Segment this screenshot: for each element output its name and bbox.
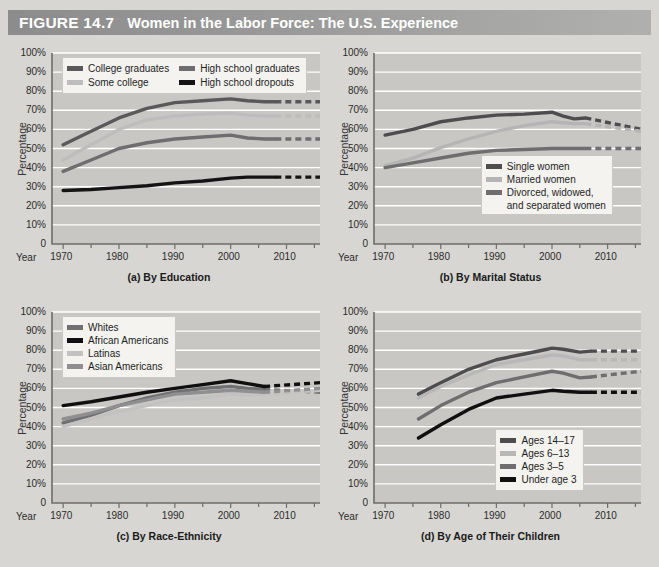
figure-title: Women in the Labor Force: The U.S. Exper… — [127, 15, 458, 31]
x-tick-label: 2010 — [595, 511, 617, 521]
y-tick-label: 90% — [330, 326, 368, 336]
legend-swatch — [67, 80, 83, 85]
legend-swatch — [486, 190, 502, 195]
panel-caption-b: (b) By Marital Status — [330, 271, 651, 283]
legend-item: Whites — [67, 322, 169, 334]
legend-label: Asian Americans — [88, 361, 162, 373]
y-tick-label: 70% — [330, 105, 368, 115]
legend-label: African Americans — [88, 335, 169, 347]
x-tick-label: 1970 — [372, 511, 394, 521]
chart-panel-d: 010%20%30%40%50%60%70%80%90%100%Percenta… — [330, 300, 651, 559]
x-tick-label: 1970 — [50, 511, 72, 521]
x-tick-label: 2010 — [274, 252, 296, 262]
legend-swatch — [67, 325, 83, 330]
legend-swatch — [500, 451, 516, 456]
legend-item: College graduates — [67, 63, 169, 75]
y-tick-label: 80% — [8, 86, 46, 96]
legend-label: Latinas — [88, 348, 120, 360]
x-tick-label: 1980 — [428, 511, 450, 521]
legend-label: Ages 3–5 — [521, 461, 563, 473]
x-tick-label: 1990 — [483, 511, 505, 521]
chart-panel-b: 010%20%30%40%50%60%70%80%90%100%Percenta… — [330, 41, 651, 300]
y-tick-label: 10% — [8, 220, 46, 230]
legend-item: Single women — [486, 161, 606, 173]
legend-swatch — [67, 338, 83, 343]
figure-header-bar: FIGURE 14.7 Women in the Labor Force: Th… — [8, 10, 651, 35]
legend-label: Whites — [88, 322, 119, 334]
legend-label: Under age 3 — [521, 474, 576, 486]
legend-swatch — [67, 351, 83, 356]
x-tick-label: 2010 — [595, 252, 617, 262]
y-tick-label: 20% — [8, 201, 46, 211]
legend-item: High school dropouts — [179, 77, 300, 89]
legend-item: Asian Americans — [67, 361, 169, 373]
y-tick-label: 0 — [330, 498, 368, 508]
legend-item: High school graduates — [179, 63, 300, 75]
y-tick-label: 10% — [330, 220, 368, 230]
x-tick-label: 1990 — [162, 252, 184, 262]
year-axis-label: Year — [338, 252, 358, 263]
x-tick-label: 1970 — [50, 252, 72, 262]
legend-item: Some college — [67, 77, 169, 89]
x-tick-label: 2000 — [539, 511, 561, 521]
x-tick-label: 1990 — [162, 511, 184, 521]
legend-swatch — [500, 477, 516, 482]
legend-item: African Americans — [67, 335, 169, 347]
legend-label: Some college — [88, 77, 149, 89]
legend-d: Ages 14–17Ages 6–13Ages 3–5Under age 3 — [495, 429, 583, 491]
legend-item: Ages 6–13 — [500, 448, 576, 460]
y-tick-label: 100% — [8, 48, 46, 58]
legend-c: WhitesAfrican AmericansLatinasAsian Amer… — [62, 316, 176, 378]
y-tick-label: 0 — [8, 239, 46, 249]
y-axis-label: Percentage — [338, 122, 350, 176]
y-tick-label: 0 — [8, 498, 46, 508]
x-tick-label: 2000 — [218, 511, 240, 521]
legend-b: Single womenMarried womenDivorced, widow… — [481, 155, 613, 215]
y-tick-label: 20% — [330, 460, 368, 470]
y-tick-label: 70% — [8, 105, 46, 115]
chart-panel-c: 010%20%30%40%50%60%70%80%90%100%Percenta… — [8, 300, 330, 559]
y-tick-label: 100% — [330, 48, 368, 58]
panel-caption-a: (a) By Education — [8, 271, 330, 283]
y-tick-label: 90% — [330, 67, 368, 77]
y-tick-label: 0 — [330, 239, 368, 249]
y-tick-label: 20% — [8, 460, 46, 470]
year-axis-label: Year — [16, 252, 36, 263]
panel-caption-c: (c) By Race-Ethnicity — [8, 530, 330, 542]
legend-swatch — [486, 164, 502, 169]
year-axis-label: Year — [16, 511, 36, 522]
x-tick-label: 2000 — [539, 252, 561, 262]
year-axis-label: Year — [338, 511, 358, 522]
legend-item: Under age 3 — [500, 474, 576, 486]
legend-a: College graduatesSome collegeHigh school… — [62, 57, 307, 94]
y-axis-label: Percentage — [16, 122, 28, 176]
legend-swatch — [67, 364, 83, 369]
y-tick-label: 100% — [330, 307, 368, 317]
y-tick-label: 80% — [330, 345, 368, 355]
legend-label: Married women — [507, 174, 576, 186]
legend-item: Latinas — [67, 348, 169, 360]
x-tick-label: 1970 — [372, 252, 394, 262]
legend-item: Married women — [486, 174, 606, 186]
y-tick-label: 70% — [8, 364, 46, 374]
x-tick-label: 2000 — [218, 252, 240, 262]
y-tick-label: 70% — [330, 364, 368, 374]
legend-swatch — [67, 66, 83, 71]
x-tick-label: 2010 — [274, 511, 296, 521]
x-tick-label: 1980 — [106, 252, 128, 262]
y-tick-label: 30% — [8, 441, 46, 451]
y-tick-label: 10% — [330, 479, 368, 489]
y-tick-label: 20% — [330, 201, 368, 211]
y-tick-label: 30% — [8, 182, 46, 192]
y-tick-label: 30% — [330, 441, 368, 451]
figure-container: FIGURE 14.7 Women in the Labor Force: Th… — [0, 0, 659, 567]
legend-swatch — [486, 177, 502, 182]
y-tick-label: 30% — [330, 182, 368, 192]
panel-grid: 010%20%30%40%50%60%70%80%90%100%Percenta… — [8, 41, 651, 559]
chart-panel-a: 010%20%30%40%50%60%70%80%90%100%Percenta… — [8, 41, 330, 300]
x-tick-label: 1990 — [483, 252, 505, 262]
legend-label: Single women — [507, 161, 570, 173]
y-tick-label: 90% — [8, 67, 46, 77]
legend-swatch — [179, 80, 195, 85]
legend-item: Ages 3–5 — [500, 461, 576, 473]
